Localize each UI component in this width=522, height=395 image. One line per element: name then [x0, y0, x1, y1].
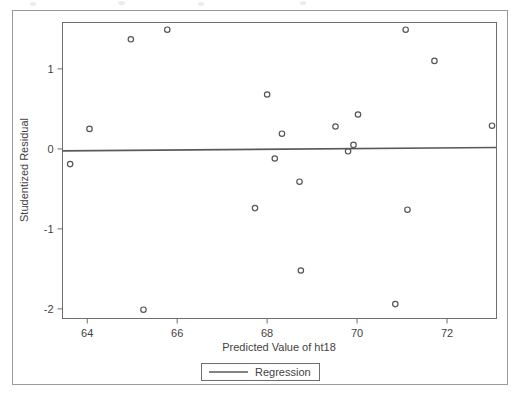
residual-scatter-plot: 10-1-2 6466687072 Predicted Value of ht1…: [0, 0, 522, 395]
x-axis-title: Predicted Value of ht18: [222, 341, 336, 353]
data-point-marker: [279, 131, 284, 136]
x-tick-label: 70: [351, 327, 363, 339]
x-tick-label: 66: [171, 327, 183, 339]
data-point-marker: [393, 301, 398, 306]
x-axis-ticks: [87, 319, 447, 324]
x-tick-label: 72: [441, 327, 453, 339]
data-point-marker: [264, 92, 269, 97]
data-point-marker: [252, 205, 257, 210]
y-tick-label: 1: [47, 63, 53, 75]
legend-label-regression: Regression: [255, 366, 311, 378]
y-axis-ticks: [58, 69, 63, 309]
data-point-marker: [403, 27, 408, 32]
y-tick-label: 0: [47, 143, 53, 155]
data-point-marker: [87, 126, 92, 131]
x-tick-label: 64: [81, 327, 93, 339]
data-point-marker: [405, 207, 410, 212]
plot-area-frame: [63, 23, 497, 319]
data-point-marker: [355, 112, 360, 117]
data-point-marker: [141, 307, 146, 312]
y-axis-tick-labels: 10-1-2: [44, 63, 54, 315]
data-point-marker: [165, 27, 170, 32]
data-point-marker: [298, 268, 303, 273]
data-point-marker: [351, 142, 356, 147]
y-axis-title: Studentized Residual: [18, 118, 30, 222]
data-point-marker: [67, 161, 72, 166]
data-point-marker: [272, 156, 277, 161]
chart-legend: Regression: [202, 364, 320, 381]
data-point-marker: [489, 123, 494, 128]
scatter-markers: [67, 27, 494, 312]
data-point-marker: [297, 179, 302, 184]
data-point-marker: [333, 124, 338, 129]
regression-line: [63, 147, 497, 150]
y-tick-label: -2: [44, 303, 54, 315]
y-tick-label: -1: [44, 223, 54, 235]
x-tick-label: 68: [261, 327, 273, 339]
x-axis-tick-labels: 6466687072: [81, 327, 453, 339]
data-point-marker: [432, 58, 437, 63]
data-point-marker: [128, 37, 133, 42]
